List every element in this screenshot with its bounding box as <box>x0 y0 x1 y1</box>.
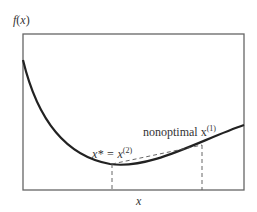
nonoptimal-label: nonoptimal x(1) <box>143 124 216 139</box>
y-axis-label: f(x) <box>13 13 30 27</box>
function-curve <box>23 60 244 165</box>
plot-frame <box>23 34 244 190</box>
x-axis-label: x <box>135 194 142 208</box>
optimization-diagram: f(x) x x* = x(2) nonoptimal x(1) <box>0 0 257 212</box>
optimal-label: x* = x(2) <box>91 146 132 161</box>
